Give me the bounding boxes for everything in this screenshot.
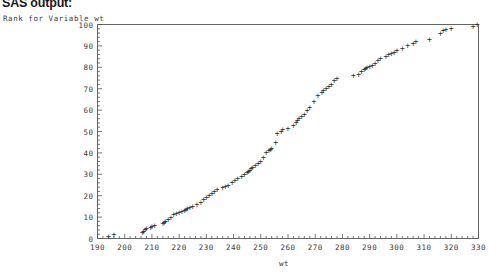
x-tick-label: 300 xyxy=(385,243,409,252)
x-tick-label: 320 xyxy=(439,243,463,252)
y-tick-label: 10 xyxy=(72,213,94,222)
x-tick-label: 330 xyxy=(467,243,489,252)
x-tick-label: 200 xyxy=(113,243,137,252)
y-tick-label: 90 xyxy=(72,42,94,51)
y-tick-label: 30 xyxy=(72,170,94,179)
y-tick-label: 70 xyxy=(72,85,94,94)
x-tick-label: 240 xyxy=(222,243,246,252)
y-tick-label: 40 xyxy=(72,149,94,158)
x-tick-label: 270 xyxy=(303,243,327,252)
x-tick-label: 230 xyxy=(194,243,218,252)
y-tick-label: 50 xyxy=(72,128,94,137)
x-tick-label: 290 xyxy=(358,243,382,252)
y-tick-label: 60 xyxy=(72,106,94,115)
sas-rank-scatter-plot: Rank for Variable wt wt 1902002102202302… xyxy=(0,0,489,275)
y-tick-label: 80 xyxy=(72,63,94,72)
x-tick-label: 310 xyxy=(412,243,436,252)
x-tick-label: 220 xyxy=(167,243,191,252)
y-tick-label: 20 xyxy=(72,192,94,201)
y-tick-label: 0 xyxy=(72,235,94,244)
x-tick-label: 190 xyxy=(86,243,110,252)
x-axis-label: wt xyxy=(279,259,289,268)
x-tick-label: 250 xyxy=(249,243,273,252)
x-tick-label: 210 xyxy=(140,243,164,252)
x-tick-label: 280 xyxy=(330,243,354,252)
y-tick-label: 100 xyxy=(72,21,94,30)
x-tick-label: 260 xyxy=(276,243,300,252)
